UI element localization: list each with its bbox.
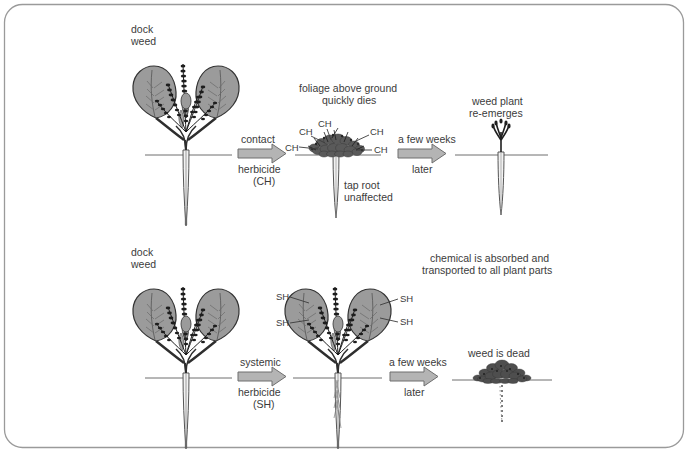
absorbed-note-line2: transported to all plant parts (422, 264, 552, 276)
systemic-arrow-label-line1: systemic (240, 356, 281, 368)
tap-root-label-line1: tap root (344, 179, 380, 191)
systemic-arrow-label-line2: herbicide (238, 386, 281, 398)
foliage-dies-label-line1: foliage above ground (299, 82, 397, 94)
tap-root-label-line2: unaffected (344, 191, 393, 203)
ch-label-right-lower: CH (374, 144, 388, 155)
dock-weed-label-line2: weed (130, 35, 156, 47)
contact-arrow-label-line1: contact (241, 133, 275, 145)
weeks-arrow-label-line2: later (412, 163, 433, 175)
dock-weed-label-line1: dock (131, 23, 154, 35)
figure-border (5, 5, 684, 448)
absorbed-note-line1: chemical is absorbed and (430, 252, 549, 264)
weeks-arrow-label-line2: later (404, 386, 425, 398)
dock-weed-label-line1: dock (131, 246, 154, 258)
contact-arrow-label-line2: herbicide (238, 163, 281, 175)
weed-is-dead-label: weed is dead (467, 347, 530, 359)
ch-label-top: CH (318, 118, 332, 129)
sh-label-right-lower: SH (400, 316, 413, 327)
re-emerges-label-line2: re-emerges (469, 107, 523, 119)
dock-weed-label-line2: weed (130, 258, 156, 270)
foliage-dies-label-line2: quickly dies (322, 94, 376, 106)
systemic-arrow-label-line3: (SH) (253, 398, 275, 410)
sh-label-right-upper: SH (400, 293, 413, 304)
ch-label-right-upper: CH (370, 126, 384, 137)
diagram-canvas: dock weed contact herbicide (CH) foliage… (0, 0, 688, 452)
weeks-arrow-label-line1: a few weeks (398, 133, 456, 145)
contact-arrow-label-line3: (CH) (253, 175, 275, 187)
ch-label-left-upper: CH (299, 126, 313, 137)
ch-label-left-lower: CH (285, 142, 299, 153)
sh-label-left-upper: SH (276, 291, 289, 302)
weeks-arrow-label-line1: a few weeks (389, 356, 447, 368)
re-emerges-label-line1: weed plant (471, 95, 523, 107)
sh-label-left-lower: SH (276, 317, 289, 328)
